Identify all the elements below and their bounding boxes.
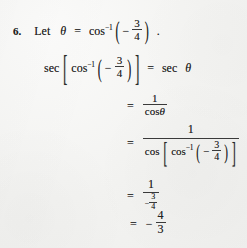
line4-open-bracket: [ xyxy=(163,135,167,168)
line4-inner-cos: cos xyxy=(171,145,186,157)
line1-minus: − xyxy=(122,24,129,38)
line1-open-paren: ( xyxy=(115,18,119,43)
line6-fraction: 4 3 xyxy=(156,209,166,237)
line3-den-cos: cos xyxy=(145,105,160,117)
line4-fraction: 1 cos [ cos−1 ( − 3 4 ) ] xyxy=(143,123,239,164)
line4-denominator: cos [ cos−1 ( − 3 4 ) ] xyxy=(143,139,239,164)
line4-inner-exponent: −1 xyxy=(186,143,194,152)
line1-period: . xyxy=(157,24,160,38)
line2-numerator: 3 xyxy=(115,54,125,67)
line3-denominator: cosθ xyxy=(143,105,167,117)
line2-rhs-theta: θ xyxy=(185,61,191,75)
line1-theta: θ xyxy=(60,24,66,38)
problem-line-4: = 1 cos [ cos−1 ( − 3 4 ) ] xyxy=(127,124,239,165)
line6-equals: = xyxy=(130,217,137,231)
line4-open-paren: ( xyxy=(196,139,200,164)
line4-close-bracket: ] xyxy=(232,135,236,168)
problem-line-5: = 1 −34 xyxy=(127,180,159,214)
line3-fraction: 1 cosθ xyxy=(143,92,167,118)
line6-numerator: 4 xyxy=(156,209,166,223)
scanned-math-page: 6. Let θ = cos−1 ( − 3 4 ) . sec [ cos−1… xyxy=(0,0,247,248)
line5-fraction: 1 −34 xyxy=(143,178,160,212)
line4-inner-numerator: 3 xyxy=(212,139,221,151)
line2-denominator: 4 xyxy=(115,67,125,79)
problem-line-2: sec [ cos−1 ( − 3 4 ) ] = sec θ xyxy=(44,56,191,82)
line1-equals: = xyxy=(74,24,81,38)
line2-close-paren: ) xyxy=(127,55,131,81)
line4-close-paren: ) xyxy=(224,139,228,164)
line2-close-bracket: ] xyxy=(135,50,139,86)
line1-exponent: −1 xyxy=(105,23,113,32)
line3-numerator: 1 xyxy=(143,92,167,105)
line6-minus: − xyxy=(146,217,153,231)
line1-fraction: 3 4 xyxy=(132,17,142,43)
line2-function: cos xyxy=(71,61,87,75)
line1-function: cos xyxy=(89,24,105,38)
line4-inner-denominator: 4 xyxy=(212,151,221,162)
problem-line-6: = − 4 3 xyxy=(130,211,166,239)
line3-equals: = xyxy=(127,99,134,113)
line1-close-paren: ) xyxy=(145,18,149,43)
problem-number: 6. xyxy=(13,25,21,37)
line2-fraction: 3 4 xyxy=(115,54,125,80)
line4-minus: − xyxy=(203,145,209,157)
line2-minus: − xyxy=(105,61,112,75)
line5-numerator: 1 xyxy=(143,178,160,192)
problem-line-3: = 1 cosθ xyxy=(127,94,167,120)
line3-den-theta: θ xyxy=(159,105,164,117)
line1-denominator: 4 xyxy=(132,30,142,42)
line2-exponent: −1 xyxy=(87,60,95,69)
line1-numerator: 3 xyxy=(132,17,142,30)
line4-equals: = xyxy=(127,136,134,150)
line6-denominator: 3 xyxy=(156,223,166,236)
line4-den-cos: cos xyxy=(145,145,160,157)
problem-number-text: 6. xyxy=(13,25,21,37)
line2-equals: = xyxy=(147,61,154,75)
line4-numerator: 1 xyxy=(143,123,239,138)
problem-line-1: 6. Let θ = cos−1 ( − 3 4 ) . xyxy=(13,19,160,45)
line5-equals: = xyxy=(127,189,134,203)
line2-rhs-sec: sec xyxy=(162,61,177,75)
line4-inner-fraction: 3 4 xyxy=(212,139,221,162)
line1-lead: Let xyxy=(34,24,50,38)
line2-sec: sec xyxy=(44,61,59,75)
line2-open-paren: ( xyxy=(98,55,102,81)
line2-open-bracket: [ xyxy=(63,50,67,86)
